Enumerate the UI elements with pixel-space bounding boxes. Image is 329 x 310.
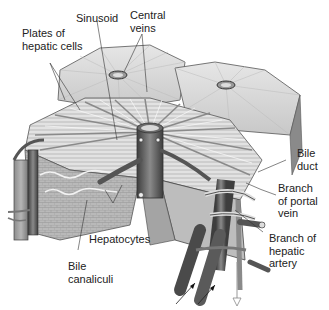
label-bile-duct: Bile duct bbox=[297, 147, 318, 172]
label-plates-of-hepatic-cells: Plates of hepatic cells bbox=[22, 27, 83, 52]
label-bile-canaliculi: Bile canaliculi bbox=[68, 260, 113, 285]
liver-lobule-diagram: Sinusoid Central veins Plates of hepatic… bbox=[0, 0, 329, 310]
label-central-veins: Central veins bbox=[130, 9, 165, 34]
label-hepatocytes: Hepatocytes bbox=[89, 233, 150, 246]
label-branch-of-hepatic-artery: Branch of hepatic artery bbox=[269, 232, 316, 270]
label-sinusoid: Sinusoid bbox=[76, 12, 118, 25]
label-branch-of-portal-vein: Branch of portal vein bbox=[278, 182, 318, 220]
